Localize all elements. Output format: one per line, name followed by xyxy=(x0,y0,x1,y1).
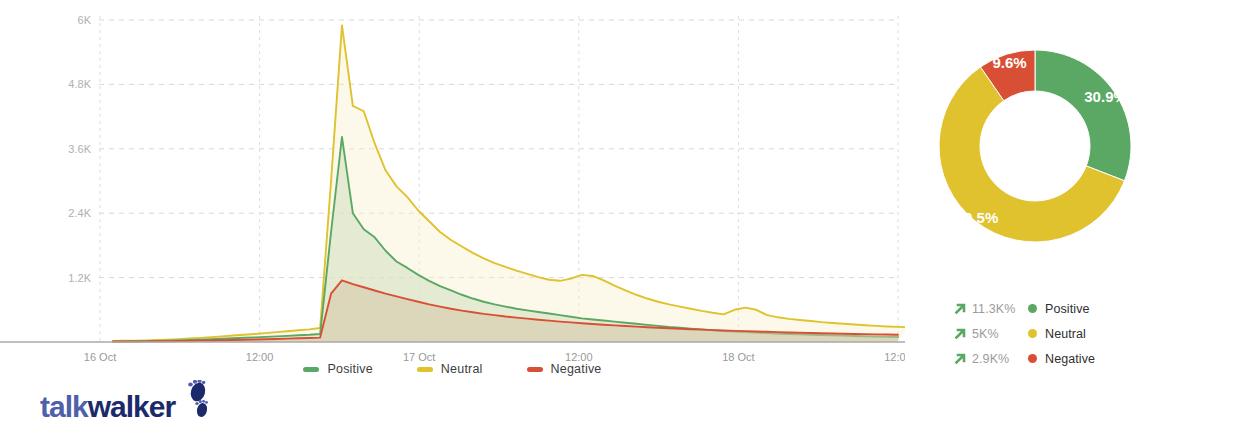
donut-chart-svg: 30.9%59.5%9.6% xyxy=(905,0,1234,290)
y-axis-tick-label: 1.2K xyxy=(68,272,91,284)
legend-item-negative[interactable]: Negative xyxy=(527,362,602,376)
area-chart-svg: 1.2K2.4K3.6K4.8K6K16 Oct12:0017 Oct12:00… xyxy=(0,0,905,400)
stat-row-negative[interactable]: 2.9K% Negative xyxy=(952,348,1132,369)
trend-up-icon xyxy=(952,325,969,342)
legend-item-positive[interactable]: Positive xyxy=(303,362,372,376)
stat-dot-positive xyxy=(1028,304,1037,313)
donut-label-positive: 30.9% xyxy=(1084,88,1127,105)
series-positive xyxy=(113,137,898,342)
sentiment-share-donut: 30.9%59.5%9.6% xyxy=(905,0,1234,290)
footprint-icon xyxy=(176,380,210,420)
series-neutral xyxy=(113,25,905,342)
legend-label-neutral: Neutral xyxy=(441,362,483,376)
legend-swatch-positive xyxy=(303,367,319,372)
legend-swatch-negative xyxy=(527,367,543,372)
y-axis-tick-label: 3.6K xyxy=(68,143,91,155)
donut-slice-positive[interactable] xyxy=(1035,50,1131,181)
chart-legend: Positive Neutral Negative xyxy=(0,362,905,376)
sentiment-timeline-chart: 1.2K2.4K3.6K4.8K6K16 Oct12:0017 Oct12:00… xyxy=(0,0,905,400)
stat-label-negative: Negative xyxy=(1045,352,1095,366)
stat-value-negative: 2.9K% xyxy=(972,352,1028,366)
trend-up-icon xyxy=(952,350,969,367)
donut-label-negative: 9.6% xyxy=(993,54,1027,71)
logo-text-talk: talk xyxy=(40,390,88,423)
sentiment-stats-legend: 11.3K% Positive 5K% Neutral 2.9K% Negati… xyxy=(952,298,1132,369)
stat-dot-negative xyxy=(1028,354,1037,363)
stat-dot-neutral xyxy=(1028,329,1037,338)
y-axis-tick-label: 6K xyxy=(78,14,92,26)
donut-label-neutral: 59.5% xyxy=(956,209,999,226)
talkwalker-logo: talkwalker xyxy=(40,392,210,436)
stat-row-neutral[interactable]: 5K% Neutral xyxy=(952,323,1132,344)
logo-text-walker: walker xyxy=(88,390,175,423)
y-axis-tick-label: 4.8K xyxy=(68,78,91,90)
y-axis-tick-label: 2.4K xyxy=(68,207,91,219)
stat-value-neutral: 5K% xyxy=(972,327,1028,341)
legend-label-negative: Negative xyxy=(551,362,602,376)
legend-item-neutral[interactable]: Neutral xyxy=(417,362,483,376)
stat-value-positive: 11.3K% xyxy=(972,302,1028,316)
legend-label-positive: Positive xyxy=(327,362,372,376)
stat-row-positive[interactable]: 11.3K% Positive xyxy=(952,298,1132,319)
stat-label-positive: Positive xyxy=(1045,302,1090,316)
stat-label-neutral: Neutral xyxy=(1045,327,1086,341)
legend-swatch-neutral xyxy=(417,367,433,372)
trend-up-icon xyxy=(952,300,969,317)
